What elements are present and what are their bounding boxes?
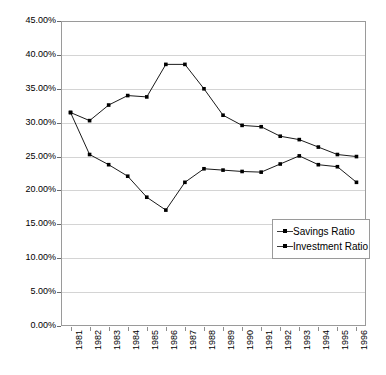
x-axis-tick xyxy=(185,327,186,331)
x-axis-tick xyxy=(90,327,91,331)
x-axis-tick-label: 1989 xyxy=(227,330,236,350)
legend-item-investment-ratio: Investment Ratio xyxy=(277,239,369,254)
legend-marker-icon xyxy=(277,241,293,252)
y-axis-tick-label: 25.00% xyxy=(25,152,56,161)
line-chart: 45.00%40.00%35.00%30.00%25.00%20.00%15.0… xyxy=(0,0,386,375)
y-axis-tick-label: 15.00% xyxy=(25,219,56,228)
x-axis-tick xyxy=(166,327,167,331)
y-axis: 45.00%40.00%35.00%30.00%25.00%20.00%15.0… xyxy=(0,0,56,375)
y-axis-tick-label: 0.00% xyxy=(30,321,56,330)
legend-item-savings-ratio: Savings Ratio xyxy=(277,224,369,239)
gridline xyxy=(62,55,365,56)
x-axis-tick-label: 1984 xyxy=(132,330,141,350)
x-axis-tick xyxy=(147,327,148,331)
x-axis-tick xyxy=(109,327,110,331)
x-axis-tick-label: 1983 xyxy=(113,330,122,350)
chart-legend: Savings Ratio Investment Ratio xyxy=(272,219,370,259)
legend-label-savings-ratio: Savings Ratio xyxy=(293,226,355,237)
x-axis-tick xyxy=(261,327,262,331)
x-axis-tick-label: 1991 xyxy=(265,330,274,350)
legend-marker-icon xyxy=(277,226,293,237)
x-axis-tick-label: 1981 xyxy=(75,330,84,350)
x-axis-tick xyxy=(71,327,72,331)
y-axis-tick-label: 20.00% xyxy=(25,185,56,194)
x-axis-tick xyxy=(280,327,281,331)
y-axis-tick-label: 30.00% xyxy=(25,118,56,127)
x-axis-tick xyxy=(337,327,338,331)
y-axis-tick-label: 40.00% xyxy=(25,50,56,59)
gridline xyxy=(62,89,365,90)
gridline xyxy=(62,157,365,158)
x-axis-tick-label: 1985 xyxy=(151,330,160,350)
x-axis: 1981198219831984198519861987198819891990… xyxy=(61,327,366,375)
legend-label-investment-ratio: Investment Ratio xyxy=(293,241,368,252)
x-axis-tick-label: 1994 xyxy=(322,330,331,350)
x-axis-tick xyxy=(356,327,357,331)
x-axis-tick-label: 1996 xyxy=(360,330,369,350)
x-axis-tick xyxy=(318,327,319,331)
gridline xyxy=(62,190,365,191)
x-axis-tick xyxy=(242,327,243,331)
x-axis-tick-label: 1987 xyxy=(189,330,198,350)
x-axis-tick xyxy=(128,327,129,331)
y-axis-tick-label: 5.00% xyxy=(30,287,56,296)
x-axis-tick-label: 1993 xyxy=(303,330,312,350)
y-axis-tick-label: 35.00% xyxy=(25,84,56,93)
x-axis-tick-label: 1990 xyxy=(246,330,255,350)
x-axis-tick xyxy=(204,327,205,331)
y-axis-tick-label: 45.00% xyxy=(25,16,56,25)
x-axis-tick xyxy=(299,327,300,331)
gridline xyxy=(62,123,365,124)
plot-area xyxy=(61,21,366,326)
x-axis-tick-label: 1982 xyxy=(94,330,103,350)
x-axis-tick-label: 1995 xyxy=(341,330,350,350)
x-axis-tick xyxy=(223,327,224,331)
y-axis-tick-label: 10.00% xyxy=(25,253,56,262)
x-axis-tick-label: 1992 xyxy=(284,330,293,350)
x-axis-tick-label: 1986 xyxy=(170,330,179,350)
x-axis-tick-label: 1988 xyxy=(208,330,217,350)
gridline xyxy=(62,292,365,293)
